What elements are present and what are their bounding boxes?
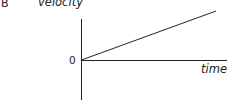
velocity-line	[82, 11, 217, 60]
velocity-time-graph	[0, 0, 231, 100]
